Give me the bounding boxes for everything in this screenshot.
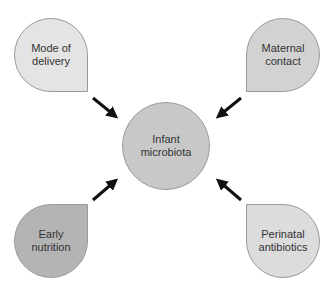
arrow-early-nutrition — [93, 182, 114, 200]
arrow-mode-of-delivery — [93, 98, 114, 115]
node-label: Maternal contact — [262, 42, 305, 68]
arrow-perinatal-antibiotics — [220, 182, 241, 200]
node-maternal-contact: Maternal contact — [246, 18, 320, 92]
center-label: Infant microbiota — [141, 133, 192, 159]
node-label: Early nutrition — [31, 228, 70, 254]
node-early-nutrition: Early nutrition — [14, 204, 88, 278]
node-perinatal-antibiotics: Perinatal antibiotics — [246, 204, 320, 278]
node-infant-microbiota: Infant microbiota — [122, 102, 210, 190]
arrow-maternal-contact — [220, 98, 241, 115]
node-label: Mode of delivery — [31, 42, 71, 68]
node-label: Perinatal antibiotics — [259, 228, 308, 254]
node-mode-of-delivery: Mode of delivery — [14, 18, 88, 92]
